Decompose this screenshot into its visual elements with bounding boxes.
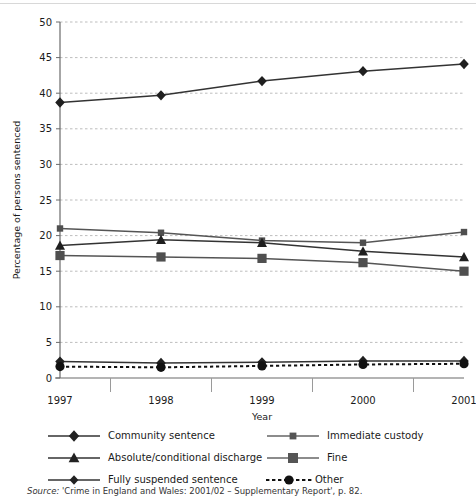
y-axis-tick-label: 20 [39, 230, 52, 241]
line-chart: 0510152025303540455019971998199920002001… [0, 0, 476, 424]
data-point-marker [55, 362, 64, 371]
data-point-marker [257, 361, 266, 370]
y-axis-tick-label: 15 [39, 266, 52, 277]
data-point-marker [358, 360, 367, 369]
source-text: 'Crime in England and Wales: 2001/02 – S… [59, 486, 362, 496]
legend-label: Fine [327, 453, 347, 463]
legend-row-1b: Immediate custody [265, 426, 423, 446]
legend-key-large-square-icon [265, 450, 321, 466]
legend-label: Absolute/conditional discharge [108, 453, 262, 463]
y-axis-tick-label: 50 [39, 17, 52, 28]
y-axis-tick-label: 40 [39, 88, 52, 99]
legend-row-2b: Fine [265, 448, 347, 468]
data-point-marker [358, 66, 368, 76]
y-axis-tick-label: 45 [39, 52, 52, 63]
y-axis-tick-label: 5 [46, 337, 52, 348]
legend-label: Other [315, 475, 343, 485]
y-axis-tick-label: 30 [39, 159, 52, 170]
legend-item-absolute-conditional-discharge: Absolute/conditional discharge [46, 450, 262, 466]
data-point-marker [459, 59, 469, 69]
legend-item-community-sentence: Community sentence [46, 428, 215, 444]
series-fine [55, 251, 468, 276]
source-note: Source: 'Crime in England and Wales: 200… [27, 486, 362, 496]
series-community-sentence [55, 59, 469, 108]
data-point-marker [156, 252, 165, 261]
legend-label: Immediate custody [327, 431, 423, 441]
legend-key-triangle-icon [46, 450, 102, 466]
legend-item-immediate-custody: Immediate custody [265, 428, 423, 444]
data-point-marker [55, 97, 65, 107]
legend-key-small-square-icon [265, 428, 321, 444]
data-point-marker [257, 254, 266, 263]
legend-row-2: Absolute/conditional discharge [46, 448, 262, 468]
legend-item-fine: Fine [265, 450, 347, 466]
legend-label: Community sentence [108, 431, 215, 441]
y-axis-tick-label: 35 [39, 123, 52, 134]
y-axis-title: Percentage of persons sentenced [11, 121, 22, 280]
y-axis-tick-label: 25 [39, 195, 52, 206]
data-point-marker [156, 90, 166, 100]
legend-label: Fully suspended sentence [108, 475, 238, 485]
x-axis-tick-label: 2000 [350, 395, 375, 406]
source-prefix: Source: [27, 486, 59, 496]
chart-legend: Community sentence Immediate custody [0, 424, 476, 480]
x-axis-tick-label: 1997 [47, 395, 72, 406]
data-point-marker [55, 251, 64, 260]
legend-key-diamond-icon [46, 428, 102, 444]
x-axis-tick-label: 1998 [148, 395, 173, 406]
data-point-marker [360, 240, 366, 246]
data-point-marker [257, 76, 267, 86]
x-axis-tick-label: 2001 [451, 395, 476, 406]
y-axis-tick-label: 10 [39, 301, 52, 312]
data-point-marker [459, 267, 468, 276]
data-point-marker [57, 225, 63, 231]
data-point-marker [358, 258, 367, 267]
x-axis-tick-label: 1999 [249, 395, 274, 406]
y-axis-tick-label: 0 [46, 373, 52, 384]
legend-row-1: Community sentence [46, 426, 215, 446]
figure-container: 0510152025303540455019971998199920002001… [0, 0, 476, 501]
x-axis-title: Year [251, 411, 272, 422]
data-point-marker [461, 229, 467, 235]
data-point-marker [156, 363, 165, 372]
data-point-marker [459, 359, 468, 368]
